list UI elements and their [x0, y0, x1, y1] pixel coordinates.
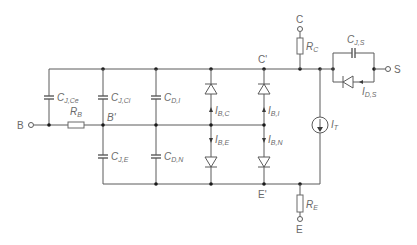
junction-dot — [209, 123, 213, 127]
rb-label: RB — [70, 106, 82, 118]
ibc-diode — [205, 84, 217, 94]
cje-label: CJ,E — [111, 151, 129, 163]
inner-base-node — [101, 123, 105, 127]
inner-collector-label: C' — [258, 54, 267, 65]
cjs-label: CJ,S — [347, 34, 365, 46]
ibe-arrow-icon — [209, 138, 213, 143]
inner-base-label: B' — [107, 112, 117, 123]
ids-label: ID,S — [362, 86, 377, 98]
base-terminal[interactable] — [29, 123, 34, 128]
base-terminal-label: B — [17, 120, 24, 131]
ibi-diode — [258, 84, 270, 94]
ibe-label: IB,E — [215, 134, 229, 146]
cdn-label: CD,N — [164, 151, 184, 163]
re-label: RE — [306, 199, 318, 211]
collector-terminal-label: C — [296, 14, 303, 25]
junction-dot — [154, 123, 158, 127]
inner-emitter-node — [262, 182, 266, 186]
substrate-terminal-label: S — [394, 64, 401, 75]
ids-arrow-icon — [359, 80, 363, 84]
junction-dot — [47, 123, 51, 127]
circuit-diagram: B RB CJ,Ce CJ,Ci B' CJ,E CD,I CD,N IB,C … — [0, 0, 417, 245]
rb-resistor — [68, 122, 84, 128]
ibc-arrow-icon — [209, 107, 213, 112]
ibn-arrow-icon — [262, 138, 266, 143]
collector-terminal[interactable] — [298, 27, 303, 32]
it-label: IT — [331, 119, 339, 131]
cdi-label: CD,I — [164, 92, 180, 104]
junction-dot — [154, 182, 158, 186]
substrate-terminal[interactable] — [386, 67, 391, 72]
junction-dot — [262, 123, 266, 127]
emitter-terminal-label: E — [296, 224, 303, 235]
ibe-diode — [205, 157, 217, 167]
re-resistor — [297, 195, 303, 212]
ibn-diode — [258, 157, 270, 167]
ds-diode — [343, 76, 353, 88]
rc-label: RC — [306, 41, 319, 53]
ibc-label: IB,C — [215, 105, 230, 117]
ibn-label: IB,N — [268, 134, 283, 146]
inner-emitter-label: E' — [258, 189, 267, 200]
junction-dot — [209, 182, 213, 186]
emitter-terminal[interactable] — [298, 217, 303, 222]
cjce-label: CJ,Ce — [57, 92, 79, 104]
ibi-arrow-icon — [262, 107, 266, 112]
cjci-label: CJ,Ci — [111, 92, 131, 104]
rc-resistor — [297, 38, 303, 54]
ibi-label: IB,I — [268, 105, 279, 117]
